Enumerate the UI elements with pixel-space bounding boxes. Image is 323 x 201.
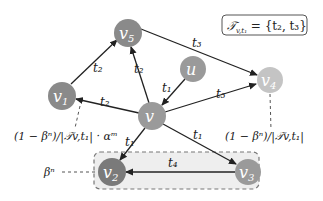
node-v: v	[138, 102, 166, 130]
node-v5: v5	[114, 19, 142, 47]
left-formula: (1 − βⁿ)/|𝒯v,t₁| · αᵐ	[14, 130, 118, 144]
beta-label: βⁿ	[43, 166, 55, 179]
svg-text:v: v	[145, 107, 154, 126]
svg-text:t₄: t₄	[168, 156, 178, 170]
edge-labels: t₂ t₂ t₃ t₁ t₂ t₃ t₁ t₁ t₄	[93, 36, 226, 170]
svg-text:t₁: t₁	[193, 128, 203, 142]
dash-v1-formula	[75, 106, 80, 128]
svg-text:t₁: t₁	[162, 81, 172, 95]
svg-text:t₁: t₁	[125, 135, 135, 149]
dash-v4-formula	[270, 94, 271, 130]
edges	[71, 29, 257, 172]
svg-text:u: u	[186, 60, 196, 79]
node-v1: v1	[48, 82, 76, 110]
svg-text:t₃: t₃	[216, 87, 226, 101]
node-u: u	[180, 56, 206, 82]
svg-text:t₂: t₂	[100, 95, 110, 109]
diagram-canvas: 𝒯v,t₁ = {t₂, t₃} t₂ t₂ t₃ t₁ t₂ t₃ t₁ t₁…	[0, 0, 323, 201]
node-v4: v4	[257, 67, 283, 93]
temporal-graph-diagram: 𝒯v,t₁ = {t₂, t₃} t₂ t₂ t₃ t₁ t₂ t₃ t₁ t₁…	[0, 0, 323, 201]
svg-text:t₃: t₃	[192, 36, 202, 50]
node-v3: v3	[235, 159, 261, 185]
node-v2: v2	[98, 158, 126, 186]
right-formula: (1 − βⁿ)/|𝒯v,t₁|	[225, 130, 304, 144]
svg-text:t₂: t₂	[134, 62, 144, 76]
svg-text:t₂: t₂	[93, 61, 103, 75]
edge-v-v4	[165, 84, 256, 112]
